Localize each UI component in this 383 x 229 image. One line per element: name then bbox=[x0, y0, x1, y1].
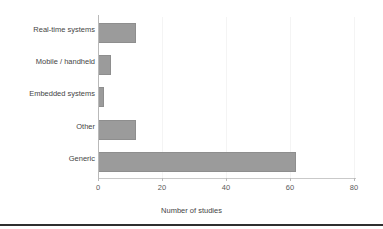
y-axis-line bbox=[98, 15, 99, 180]
bottom-divider bbox=[0, 224, 383, 226]
x-tick-mark-20 bbox=[162, 178, 163, 181]
bar-other bbox=[98, 120, 136, 140]
x-axis-line bbox=[98, 178, 356, 179]
x-tick-label-60: 60 bbox=[286, 183, 294, 193]
category-label-embedded-systems: Embedded systems bbox=[29, 89, 95, 99]
bar-generic bbox=[98, 152, 296, 172]
x-tick-label-80: 80 bbox=[350, 183, 358, 193]
plot-area: Real-time systems Mobile / handheld Embe… bbox=[98, 17, 356, 178]
bar-row: Other bbox=[98, 114, 356, 146]
x-axis-title: Number of studies bbox=[0, 206, 383, 216]
bar-mobile-handheld bbox=[98, 55, 111, 75]
x-tick-label-40: 40 bbox=[222, 183, 230, 193]
x-tick-mark-60 bbox=[290, 178, 291, 181]
x-tick-label-0: 0 bbox=[96, 183, 100, 193]
x-tick-mark-80 bbox=[354, 178, 355, 181]
bar-row: Generic bbox=[98, 146, 356, 178]
bar-row: Real-time systems bbox=[98, 17, 356, 49]
bar-real-time-systems bbox=[98, 23, 136, 43]
category-label-other: Other bbox=[76, 122, 95, 132]
category-label-generic: Generic bbox=[69, 154, 95, 164]
bar-row: Mobile / handheld bbox=[98, 49, 356, 81]
bar-row: Embedded systems bbox=[98, 81, 356, 113]
category-label-mobile-handheld: Mobile / handheld bbox=[36, 57, 95, 67]
x-tick-mark-40 bbox=[226, 178, 227, 181]
bar-chart-figure: Real-time systems Mobile / handheld Embe… bbox=[0, 0, 383, 229]
x-tick-label-20: 20 bbox=[158, 183, 166, 193]
x-tick-mark-0 bbox=[98, 178, 99, 181]
category-label-real-time-systems: Real-time systems bbox=[33, 25, 95, 35]
